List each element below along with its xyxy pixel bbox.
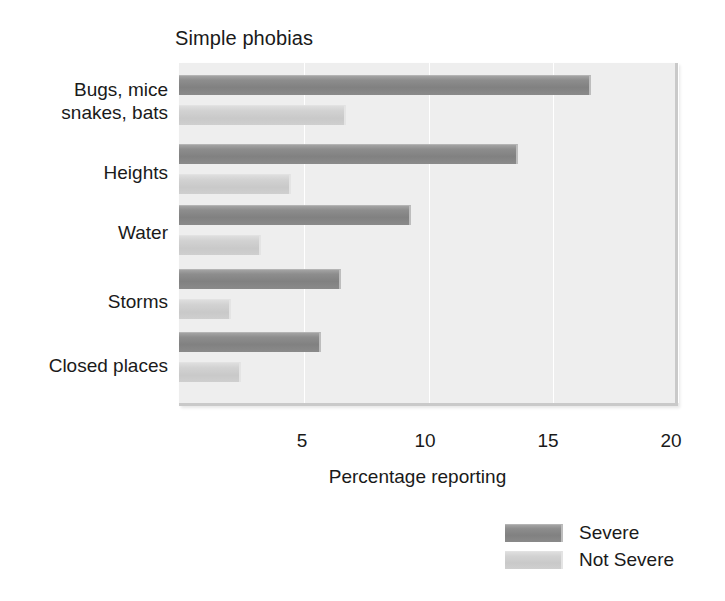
bar-not-severe-3 xyxy=(179,299,231,319)
bar-severe-2 xyxy=(179,205,411,225)
category-label-closed-places: Closed places xyxy=(49,354,168,377)
legend-item-not-severe: Not Severe xyxy=(505,548,674,572)
gridline-15 xyxy=(553,63,554,403)
legend-swatch-not-severe-icon xyxy=(505,551,563,569)
chart-title: Simple phobias xyxy=(175,27,313,50)
plot-area xyxy=(179,63,678,406)
legend-label-severe: Severe xyxy=(579,522,639,544)
legend-label-not-severe: Not Severe xyxy=(579,549,674,571)
bar-chart: Simple phobias Bugs, mice snakes, bats H… xyxy=(0,0,725,601)
category-label-heights: Heights xyxy=(104,161,168,184)
category-label-bugs: Bugs, mice snakes, bats xyxy=(61,78,168,124)
legend-item-severe: Severe xyxy=(505,521,674,545)
x-tick-label-20: 20 xyxy=(660,430,681,452)
bar-not-severe-1 xyxy=(179,174,291,194)
category-label-storms: Storms xyxy=(108,290,168,313)
x-axis-title: Percentage reporting xyxy=(0,466,725,488)
x-axis-title-text: Percentage reporting xyxy=(329,466,506,488)
x-tick-label-10: 10 xyxy=(414,430,435,452)
category-label-water: Water xyxy=(118,221,168,244)
legend-swatch-severe-icon xyxy=(505,524,563,542)
legend: Severe Not Severe xyxy=(505,521,674,575)
gridline-10 xyxy=(429,63,430,403)
bar-severe-1 xyxy=(179,144,518,164)
bar-severe-4 xyxy=(179,332,321,352)
x-tick-label-15: 15 xyxy=(537,430,558,452)
bar-severe-3 xyxy=(179,269,341,289)
bar-severe-0 xyxy=(179,75,591,95)
x-tick-label-5: 5 xyxy=(297,430,308,452)
gridline-20 xyxy=(678,63,679,403)
bar-not-severe-4 xyxy=(179,362,241,382)
bar-not-severe-0 xyxy=(179,105,346,125)
bar-not-severe-2 xyxy=(179,235,261,255)
